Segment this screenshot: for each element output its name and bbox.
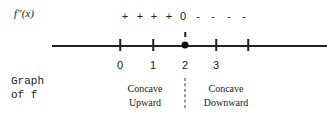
sign-symbol: + — [137, 10, 143, 22]
second-derivative-label: f"(x) — [14, 7, 34, 19]
tick-label: 3 — [213, 59, 219, 71]
number-line-axis — [52, 45, 327, 47]
sign-symbol: + — [122, 10, 128, 22]
concavity-line2: Downward — [204, 96, 248, 110]
inflection-point-dot — [182, 42, 189, 49]
graph-of-f-line2: of f — [11, 88, 44, 102]
concavity-label: ConcaveDownward — [204, 82, 248, 110]
concavity-line2: Upward — [128, 96, 163, 110]
tick-mark — [247, 39, 249, 51]
tick-mark — [119, 39, 121, 51]
sign-symbol: - — [242, 10, 246, 22]
sign-symbol: + — [166, 10, 172, 22]
tick-label: 2 — [182, 59, 188, 71]
graph-of-f-label: Graph of f — [11, 74, 44, 102]
sign-symbol: + — [151, 10, 157, 22]
sign-symbol: - — [211, 10, 215, 22]
sign-symbol: 0 — [180, 10, 186, 22]
concavity-line1: Concave — [204, 82, 248, 96]
tick-mark — [152, 39, 154, 51]
inflection-marker — [184, 32, 186, 37]
tick-mark — [215, 39, 217, 51]
concavity-line1: Concave — [128, 82, 163, 96]
sign-symbol: - — [196, 10, 200, 22]
inflection-divider — [185, 78, 186, 108]
tick-label: 0 — [117, 59, 123, 71]
tick-label: 1 — [150, 59, 156, 71]
concavity-label: ConcaveUpward — [128, 82, 163, 110]
graph-of-f-line1: Graph — [11, 74, 44, 88]
sign-symbol: - — [227, 10, 231, 22]
